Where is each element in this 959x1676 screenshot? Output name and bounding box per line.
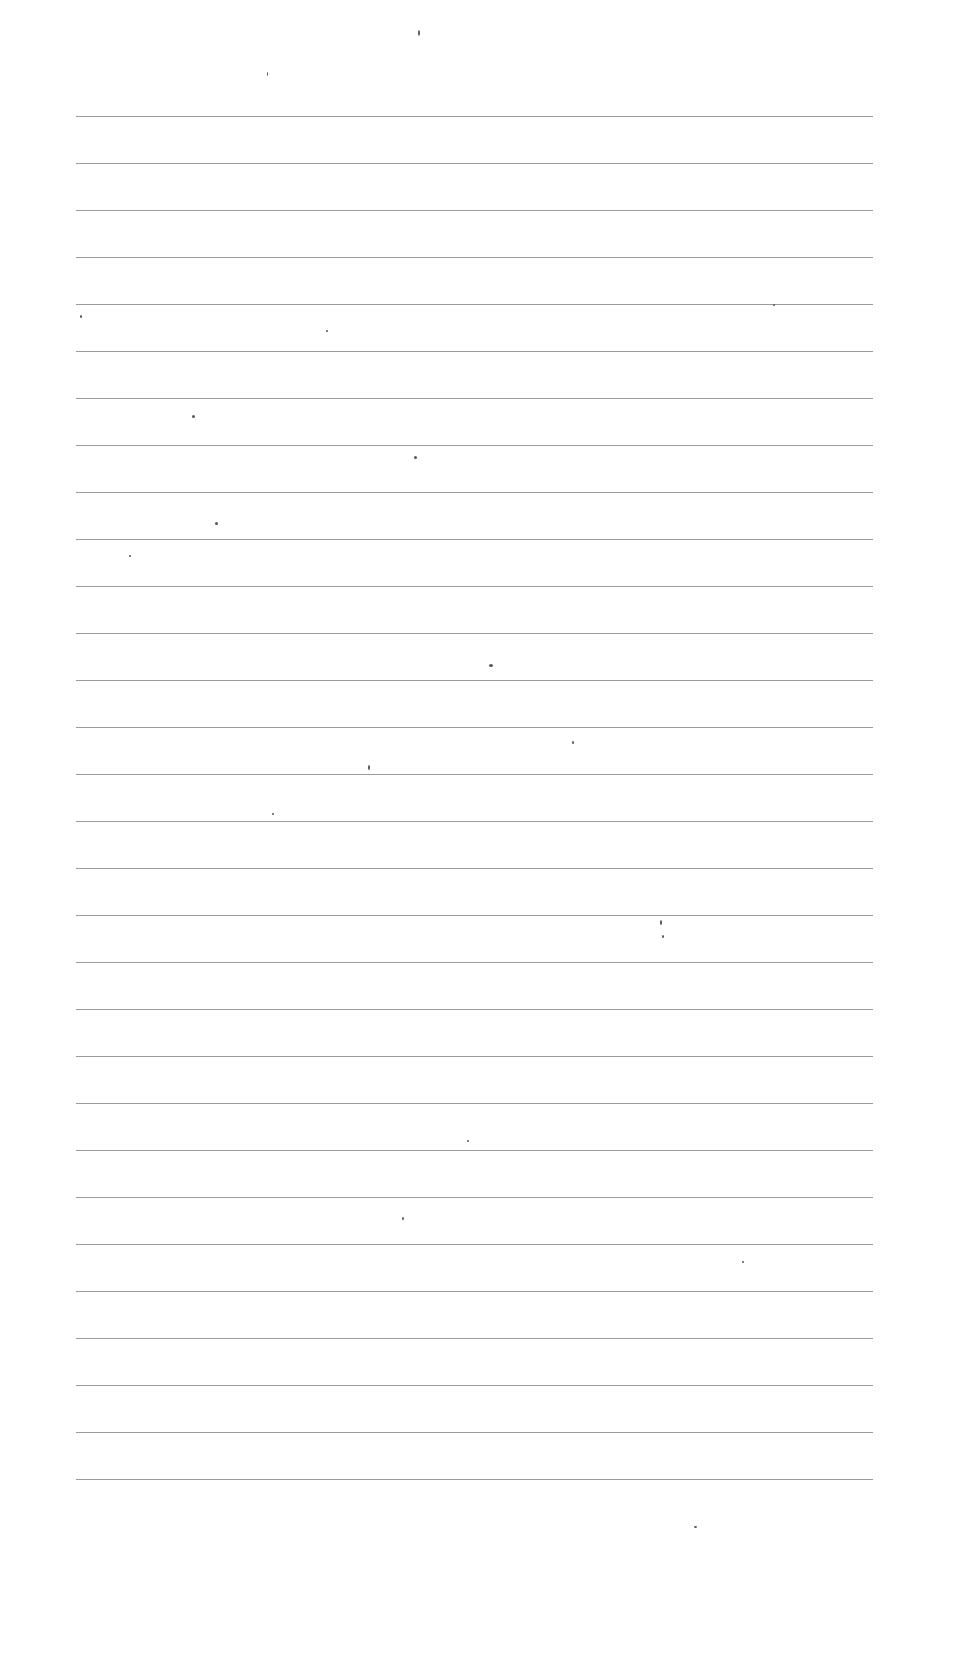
ruled-line (76, 680, 873, 681)
speck (129, 555, 131, 557)
speck (660, 920, 662, 925)
speck (467, 1140, 469, 1142)
ruled-line (76, 539, 873, 540)
ruled-line (76, 774, 873, 775)
ruled-line (76, 304, 873, 305)
ruled-line (76, 1291, 873, 1292)
speck (267, 72, 268, 76)
ruled-line (76, 1479, 873, 1480)
speck (215, 522, 218, 525)
ruled-line (76, 351, 873, 352)
lined-page (0, 0, 959, 1676)
ruled-line (76, 210, 873, 211)
speck (402, 1217, 404, 1220)
speck (773, 304, 775, 306)
speck (572, 741, 574, 744)
ruled-line (76, 257, 873, 258)
ruled-line (76, 727, 873, 728)
speck (326, 330, 328, 332)
ruled-line (76, 1103, 873, 1104)
ruled-line (76, 445, 873, 446)
ruled-line (76, 1150, 873, 1151)
ruled-line (76, 915, 873, 916)
ruled-line (76, 962, 873, 963)
speck (80, 315, 82, 318)
ruled-line (76, 868, 873, 869)
ruled-line (76, 492, 873, 493)
ruled-line (76, 1385, 873, 1386)
ruled-line (76, 398, 873, 399)
ruled-line (76, 1338, 873, 1339)
ruled-line (76, 821, 873, 822)
speck (368, 765, 370, 770)
speck (662, 935, 664, 938)
ruled-line (76, 1009, 873, 1010)
speck (742, 1261, 744, 1263)
ruled-line (76, 116, 873, 117)
ruled-line (76, 586, 873, 587)
speck (272, 813, 274, 815)
ruled-line (76, 163, 873, 164)
speck (694, 1526, 697, 1528)
ruled-line (76, 1197, 873, 1198)
speck (489, 664, 493, 667)
speck (192, 415, 195, 418)
speck (418, 30, 420, 36)
speck (414, 456, 417, 459)
ruled-line (76, 633, 873, 634)
ruled-line (76, 1244, 873, 1245)
ruled-line (76, 1432, 873, 1433)
ruled-line (76, 1056, 873, 1057)
